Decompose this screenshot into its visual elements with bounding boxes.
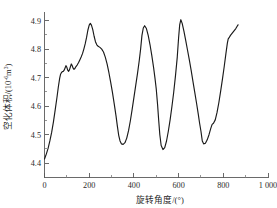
x-axis-tick-label: 1 000 [259,181,277,190]
x-axis-tick-label: 600 [172,181,184,190]
x-axis-tick-label: 800 [217,181,229,190]
y-axis-tick-label: 4.5 [31,131,41,140]
x-axis-tick-label: 0 [42,181,46,190]
x-axis-tick-label: 200 [83,181,95,190]
y-axis-title: 空化体积/(10-6m3) [2,63,13,130]
data-series-cavitation-volume [45,20,239,159]
y-axis-tick-label: 4.9 [31,17,41,26]
x-axis-tick-label: 400 [128,181,140,190]
y-axis-tick-labels: 4.44.54.64.74.84.9 [31,17,41,169]
y-axis-title-main: 空化体积/(10 [2,81,13,131]
line-chart-canvas: 02004006008001 000 4.44.54.64.74.84.9 旋转… [0,0,277,208]
chart-tick-marks [45,21,269,178]
x-axis-title: 旋转角度/(°) [136,194,184,205]
data-line-cavitation-volume [45,20,239,159]
y-axis-tick-label: 4.6 [31,102,41,111]
chart-figure: 02004006008001 000 4.44.54.64.74.84.9 旋转… [0,0,277,208]
x-axis-tick-labels: 02004006008001 000 [42,181,277,190]
y-axis-title-close-paren: ) [3,63,13,66]
y-axis-tick-label: 4.7 [31,74,41,83]
y-axis-tick-label: 4.4 [31,159,41,168]
y-axis-tick-label: 4.8 [31,45,41,54]
